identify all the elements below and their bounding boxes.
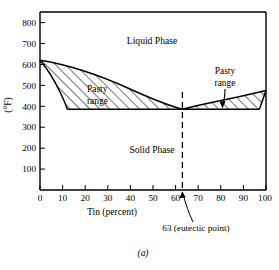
left-pasty-range-label-line2: range <box>87 96 108 106</box>
phase-diagram-figure: 100 200 300 400 500 600 700 800 (°F) <box>0 0 279 270</box>
solid-phase-label: Solid Phase <box>129 144 174 155</box>
x-tick-label-90: 90 <box>239 193 249 203</box>
y-axis-title: (°F) <box>2 97 14 113</box>
x-tick-label-40: 40 <box>126 193 136 203</box>
x-tick-label-50: 50 <box>148 193 158 203</box>
left-pasty-range-label-line1: Pasty <box>87 84 108 94</box>
figure-caption: (a) <box>138 248 149 259</box>
y-tick-label-400: 400 <box>22 102 36 112</box>
x-tick-label-100: 100 <box>258 193 272 203</box>
y-tick-label-600: 600 <box>22 60 36 70</box>
x-axis-title: Tin (percent) <box>87 206 137 218</box>
eutectic-point-annotation: 63 (eutectic point) <box>162 223 229 233</box>
x-tick-label-60: 60 <box>171 193 181 203</box>
x-axis-tick-labels: 0 10 20 30 40 50 60 70 80 90 100 <box>38 193 273 203</box>
x-tick-label-70: 70 <box>194 193 204 203</box>
x-tick-label-10: 10 <box>58 193 68 203</box>
x-tick-label-0: 0 <box>38 193 43 203</box>
x-tick-label-30: 30 <box>103 193 113 203</box>
y-tick-label-200: 200 <box>22 143 36 153</box>
lead-tin-phase-diagram: 100 200 300 400 500 600 700 800 (°F) <box>0 0 279 270</box>
right-pasty-range-label-line1: Pasty <box>215 66 236 76</box>
y-tick-label-700: 700 <box>22 39 36 49</box>
x-tick-label-20: 20 <box>81 193 91 203</box>
right-pasty-range-label-line2: range <box>215 78 236 88</box>
y-tick-label-800: 800 <box>22 18 36 28</box>
x-tick-label-80: 80 <box>216 193 226 203</box>
y-tick-label-100: 100 <box>22 164 36 174</box>
eutectic-leader <box>179 192 193 223</box>
liquid-phase-label: Liquid Phase <box>127 35 177 46</box>
eutectic-arrow-head-icon <box>179 192 185 199</box>
y-tick-label-500: 500 <box>22 81 36 91</box>
y-axis-tick-labels: 100 200 300 400 500 600 700 800 <box>22 18 36 175</box>
y-tick-label-300: 300 <box>22 122 36 132</box>
